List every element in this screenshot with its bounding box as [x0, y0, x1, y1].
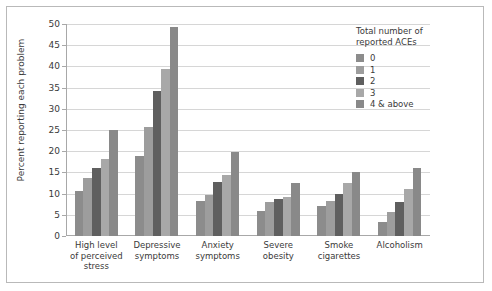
bar	[161, 69, 170, 236]
bar	[153, 91, 162, 236]
bar	[213, 182, 222, 236]
x-axis-category-label: Smoke cigarettes	[309, 240, 370, 261]
bar	[404, 189, 413, 236]
legend-swatch	[356, 77, 364, 85]
bar	[317, 206, 326, 236]
y-axis-tick-label: 30	[49, 104, 60, 113]
bar	[196, 201, 205, 236]
bar	[395, 202, 404, 236]
bar	[222, 175, 231, 236]
legend-title: Total number of reported ACEs	[356, 26, 476, 48]
bar	[231, 152, 240, 236]
legend-item: 3	[356, 89, 476, 98]
bar	[265, 202, 274, 236]
legend-item-label: 0	[370, 54, 375, 63]
legend-item-label: 3	[370, 89, 375, 98]
bar	[352, 172, 361, 236]
legend-swatch	[356, 66, 364, 74]
bar	[326, 201, 335, 236]
bar-group	[127, 24, 188, 236]
x-axis-category-label: Depressive symptoms	[127, 240, 188, 261]
bar	[335, 194, 344, 236]
bar	[109, 130, 118, 236]
legend-item-label: 1	[370, 66, 375, 75]
bar	[274, 199, 283, 236]
y-axis-tick-label: 15	[49, 168, 60, 177]
bar	[75, 191, 84, 236]
bar	[387, 212, 396, 236]
bar	[378, 222, 387, 236]
y-axis-tick-labels: 05101520253035404550	[32, 24, 60, 236]
y-axis-tick-label: 35	[49, 83, 60, 92]
legend-item: 2	[356, 77, 476, 86]
legend-swatch	[356, 89, 364, 97]
y-axis-tick-mark	[62, 236, 66, 237]
bar-group	[248, 24, 309, 236]
bar-chart-figure: Percent reporting each problem 051015202…	[0, 0, 492, 291]
y-axis-tick-label: 5	[54, 210, 60, 219]
y-axis-tick-label: 50	[49, 20, 60, 29]
legend: Total number of reported ACEs 01234 & ab…	[356, 26, 476, 112]
x-axis-category-label: Severe obesity	[248, 240, 309, 261]
bar	[291, 183, 300, 236]
y-axis-tick-label: 10	[49, 189, 60, 198]
y-axis-tick-label: 45	[49, 41, 60, 50]
legend-swatch	[356, 54, 364, 62]
bar	[135, 156, 144, 236]
legend-swatch	[356, 100, 364, 108]
bar	[343, 183, 352, 236]
y-axis-tick-label: 25	[49, 126, 60, 135]
legend-item: 0	[356, 54, 476, 63]
legend-item-label: 4 & above	[370, 100, 414, 109]
bar	[413, 168, 422, 236]
bar	[205, 195, 214, 236]
bar	[170, 27, 179, 236]
bar	[283, 197, 292, 236]
bar	[144, 127, 153, 236]
bar	[92, 168, 101, 236]
y-axis-tick-label: 0	[54, 232, 60, 241]
bar	[83, 178, 92, 236]
legend-item-label: 2	[370, 77, 375, 86]
bar	[257, 211, 266, 236]
legend-item: 1	[356, 66, 476, 75]
legend-items: 01234 & above	[356, 54, 476, 109]
y-axis-title: Percent reporting each problem	[16, 10, 26, 210]
bar-group	[187, 24, 248, 236]
y-axis-tick-label: 40	[49, 62, 60, 71]
x-axis-category-label: Anxiety symptoms	[187, 240, 248, 261]
bar-group	[66, 24, 127, 236]
bar	[101, 159, 110, 236]
x-axis-category-label: High level of perceived stress	[66, 240, 127, 272]
x-axis-category-label: Alcoholism	[369, 240, 430, 251]
y-axis-tick-label: 20	[49, 147, 60, 156]
legend-item: 4 & above	[356, 100, 476, 109]
